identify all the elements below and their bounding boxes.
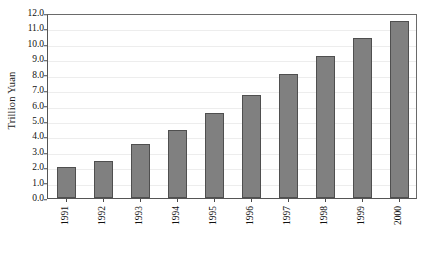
bar [353,38,372,198]
bar [94,161,113,198]
bar [131,144,150,198]
y-axis-tick-labels: 0.01.02.03.04.05.06.07.08.09.010.011.012… [16,14,46,199]
bar [242,95,261,198]
y-axis-tick-label: 12.0 [27,9,44,19]
x-axis-tick-label: 1991 [61,206,71,225]
bar-series [48,15,416,198]
x-axis-tick-mark [103,199,104,202]
y-axis-tick-label: 9.0 [32,56,44,66]
x-axis-tick-labels: 1991199219931994199519961997199819992000 [47,199,417,260]
y-axis-tick-label: 3.0 [32,148,44,158]
x-axis-tick-mark [399,199,400,202]
x-axis-tick: 1998 [315,199,334,257]
y-axis-tick-label: 10.0 [27,40,44,50]
x-axis-tick-label: 1997 [283,206,293,225]
x-axis-tick-mark [66,199,67,202]
x-axis-tick: 1995 [204,199,223,257]
x-axis-tick-mark [362,199,363,202]
x-axis-tick: 1994 [167,199,186,257]
y-axis-tick-label: 11.0 [28,25,44,35]
y-axis-tick-label: 8.0 [32,71,44,81]
y-axis-tick-label: 6.0 [32,102,44,112]
x-axis-tick-label: 2000 [394,206,404,225]
x-axis-tick: 1996 [241,199,260,257]
x-axis-tick-mark [214,199,215,202]
bar-chart: Trillion Yuan 0.01.02.03.04.05.06.07.08.… [0,0,424,260]
x-axis-tick-mark [140,199,141,202]
x-axis-tick: 1993 [130,199,149,257]
x-axis-tick-label: 1992 [98,206,108,225]
x-axis-tick-label: 1996 [246,206,256,225]
y-axis-tick-label: 5.0 [32,117,44,127]
x-axis-tick: 1991 [56,199,75,257]
x-axis-tick-label: 1995 [209,206,219,225]
x-axis-tick-label: 1999 [357,206,367,225]
plot-area [47,14,417,199]
bar [57,167,76,198]
x-axis-tick-mark [177,199,178,202]
x-axis-tick: 1997 [278,199,297,257]
x-axis-tick: 2000 [389,199,408,257]
x-axis-tick-label: 1993 [135,206,145,225]
x-axis-tick-label: 1998 [320,206,330,225]
x-axis-tick-mark [251,199,252,202]
bar [168,130,187,198]
bar [279,74,298,198]
x-axis-tick-label: 1994 [172,206,182,225]
y-axis-tick-label: 7.0 [32,86,44,96]
x-axis-tick-mark [288,199,289,202]
bar [390,21,409,198]
x-axis-tick: 1992 [93,199,112,257]
y-axis-tick-label: 4.0 [32,133,44,143]
bar [316,56,335,198]
x-axis-tick-mark [325,199,326,202]
bar [205,113,224,198]
y-axis-tick-label: 2.0 [32,163,44,173]
y-axis-tick-label: 1.0 [32,179,44,189]
y-axis-title-label: Trillion Yuan [6,71,17,129]
y-axis-tick-label: 0.0 [32,194,44,204]
x-axis-tick: 1999 [352,199,371,257]
